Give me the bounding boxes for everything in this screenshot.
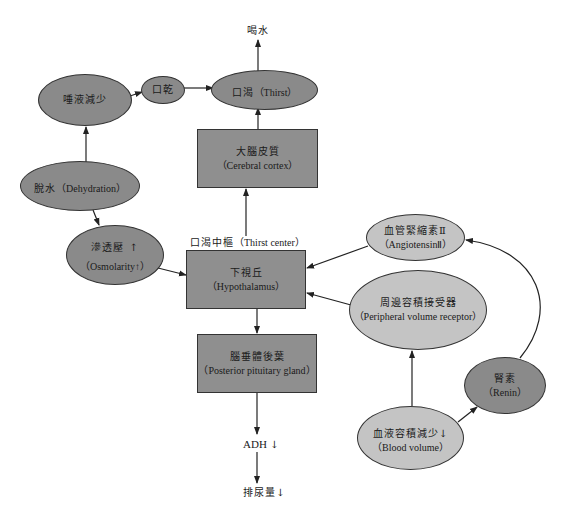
saliva-decrease-node: 唾液減少 xyxy=(38,74,132,126)
posterior-pituitary-node: 腦垂體後葉 （Posterior pituitary gland） xyxy=(197,334,317,393)
increase-arrow-icon: ↑ xyxy=(129,242,138,253)
arrow-osmolarity-to-hypothalamus xyxy=(158,268,186,275)
arrow-angiotensin-to-hypothalamus xyxy=(307,246,368,268)
adh-label: ADH ↓ xyxy=(243,437,279,452)
osmolarity-node: 滲透壓 ↑ （Osmolarity↑） xyxy=(66,225,164,285)
drink-water-label: 喝水 xyxy=(247,24,269,38)
urine-output-label: 排尿量↓ xyxy=(243,486,285,500)
dehydration-node: 脫水（Dehydration） xyxy=(20,161,140,211)
thirst-node: 口渴（Thirst） xyxy=(211,70,318,110)
hypothalamus-node: 下視丘 （Hypothalamus） xyxy=(186,250,306,309)
arrow-bloodvolume-to-renin xyxy=(458,407,477,422)
arrow-peripheral-to-hypothalamus xyxy=(307,293,351,305)
arrow-dehydration-to-osmolarity xyxy=(93,210,99,225)
peripheral-receptor-node: 周邊容積接受器 （Peripheral volume receptor） xyxy=(349,270,487,350)
renin-node: 腎素 （Renin） xyxy=(464,357,546,414)
decrease-arrow-icon: ↓ xyxy=(276,487,285,498)
cerebral-cortex-node: 大腦皮質 （Cerebral cortex） xyxy=(197,129,318,188)
blood-volume-node: 血液容積減少↓ （Blood volume） xyxy=(357,406,464,470)
decrease-arrow-icon: ↓ xyxy=(439,428,448,439)
angiotensin-node: 血管緊縮素Ⅱ （AngiotensinⅡ） xyxy=(366,214,465,261)
decrease-arrow-icon: ↓ xyxy=(270,439,279,450)
dry-mouth-node: 口乾 xyxy=(141,76,185,104)
thirst-center-label: 口渴中樞（Thirst center） xyxy=(190,236,305,250)
arrow-saliva-to-drymouth xyxy=(130,92,142,96)
